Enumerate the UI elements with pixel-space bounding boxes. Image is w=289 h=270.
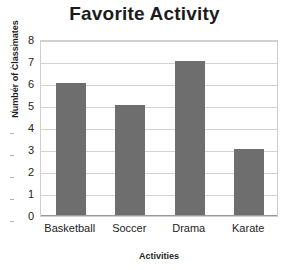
y-tick-mark	[10, 67, 14, 68]
x-axis-title: Activities	[40, 251, 278, 261]
bar-chart: Favorite Activity Number of Classmates 0…	[0, 0, 289, 270]
chart-title: Favorite Activity	[0, 2, 289, 26]
y-tick-mark	[10, 155, 14, 156]
bar-series	[41, 41, 277, 216]
y-tick-mark	[10, 177, 14, 178]
x-axis-tick-labels: BasketballSoccerDramaKarate	[40, 221, 278, 237]
y-tick-mark	[10, 199, 14, 200]
x-axis-line	[41, 215, 277, 216]
y-tick-mark	[10, 221, 14, 222]
y-tick-mark	[10, 89, 14, 90]
y-tick-label: 5	[14, 101, 34, 111]
y-tick-label: 1	[14, 189, 34, 199]
bar	[115, 105, 145, 215]
y-axis-tick-labels: 012345678	[14, 40, 34, 217]
x-tick-label: Karate	[213, 221, 283, 235]
y-tick-label: 6	[14, 79, 34, 89]
y-tick-mark	[10, 111, 14, 112]
y-tick-mark	[10, 45, 14, 46]
y-tick-label: 2	[14, 167, 34, 177]
y-tick-label: 7	[14, 57, 34, 67]
y-tick-label: 4	[14, 123, 34, 133]
plot-area	[40, 40, 278, 217]
y-tick-label: 0	[14, 211, 34, 221]
bar	[234, 149, 264, 215]
y-tick-label: 3	[14, 145, 34, 155]
bar	[56, 83, 86, 215]
bar	[175, 61, 205, 215]
y-tick-mark	[10, 133, 14, 134]
y-tick-label: 8	[14, 35, 34, 45]
